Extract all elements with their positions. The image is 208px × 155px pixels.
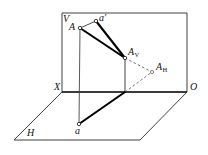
dashed-Av-to-Ah — [125, 58, 152, 72]
label-point-a: a — [75, 126, 80, 136]
plane-v-rectangle — [62, 13, 187, 92]
label-point-Ah-subscript: H — [162, 66, 167, 73]
horizontal-plane-outline — [14, 92, 187, 140]
vertical-plane-outline — [62, 13, 187, 92]
ray-A-to-Av — [80, 28, 125, 58]
segment-A-to-aprime — [80, 21, 96, 28]
label-point-A: A — [69, 22, 75, 32]
dashed-foot-to-Ah — [125, 72, 152, 92]
label-point-Av: AV — [128, 47, 139, 57]
label-plane-h: H — [27, 128, 34, 138]
label-point-Av-subscript: V — [134, 51, 139, 58]
point-marker-Ah — [150, 70, 153, 73]
ray-a-to-ground-foot — [79, 92, 125, 124]
label-axis-x: X — [54, 82, 60, 92]
ray-aprime-to-Av — [96, 21, 125, 58]
point-marker-Av — [123, 56, 126, 59]
plane-h-parallelogram — [14, 92, 187, 140]
point-marker-A — [78, 26, 81, 29]
label-origin-o: O — [190, 82, 197, 92]
projection-figure: V A a′ AV AH X O a H — [0, 0, 208, 155]
recall-line-A-to-a — [79, 28, 80, 124]
label-point-a-prime: a′ — [99, 13, 106, 23]
label-point-Ah: AH — [156, 62, 167, 72]
point-marker-a-prime — [94, 19, 97, 22]
